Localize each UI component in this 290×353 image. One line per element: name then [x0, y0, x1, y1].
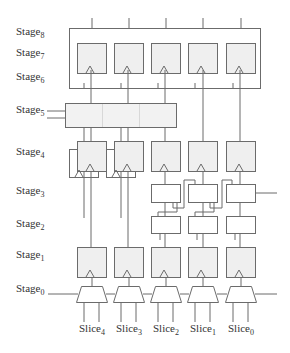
stage2-logic — [152, 217, 256, 234]
stage-label-1: Stage1 — [16, 248, 44, 263]
slice-label-1: Slice1 — [190, 322, 216, 337]
stage3-logic — [152, 185, 256, 203]
slice-label-0: Slice0 — [228, 322, 254, 337]
slice-label-2: Slice2 — [153, 322, 179, 337]
stage4-registers — [78, 142, 256, 172]
stage-label-3: Stage3 — [16, 184, 44, 199]
slice-label-3: Slice3 — [116, 322, 142, 337]
stage-label-4: Stage4 — [16, 145, 44, 160]
stage1-registers — [78, 248, 256, 278]
stage-label-2: Stage2 — [16, 217, 44, 232]
stage-label-6: Stage6 — [16, 70, 44, 85]
stage-label-8: Stage8 — [16, 25, 44, 40]
slice-label-4: Slice4 — [79, 322, 105, 337]
top-input-ticks — [92, 18, 241, 28]
stage-label-0: Stage0 — [16, 282, 44, 297]
stage0-muxes — [77, 287, 257, 303]
stage-label-7: Stage7 — [16, 46, 44, 61]
stage-label-5: Stage5 — [16, 103, 44, 118]
stage5-block — [66, 104, 177, 128]
stage7-registers — [78, 44, 256, 74]
